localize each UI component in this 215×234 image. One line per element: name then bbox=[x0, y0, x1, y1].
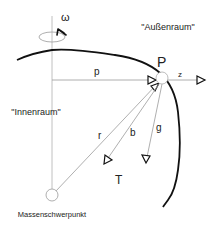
rotating-body-diagram: ω p z r b g P Massenschwerpunkt T "Außen… bbox=[0, 0, 215, 234]
outer-space-label: "Außenraum" bbox=[141, 22, 194, 32]
rotation-arrow-icon bbox=[57, 29, 66, 35]
p-label: p bbox=[94, 66, 100, 77]
center-of-mass-label: Massenschwerpunkt bbox=[18, 210, 87, 219]
b-line bbox=[104, 84, 159, 164]
r-label: r bbox=[98, 130, 102, 141]
b-label: b bbox=[130, 127, 136, 138]
omega-label: ω bbox=[61, 11, 70, 23]
b-arrowhead-icon bbox=[104, 155, 112, 164]
g-label: g bbox=[156, 122, 162, 133]
p-arrowhead-icon bbox=[148, 76, 156, 84]
z-label: z bbox=[178, 70, 182, 79]
point-p-marker bbox=[156, 72, 168, 84]
point-p-label: P bbox=[157, 54, 166, 70]
r-line bbox=[56, 83, 158, 191]
inner-space-label: "Innenraum" bbox=[11, 107, 60, 117]
center-of-mass-marker bbox=[46, 189, 58, 201]
z-arrowhead-icon bbox=[197, 76, 205, 84]
g-arrowhead-icon bbox=[142, 155, 150, 163]
t-label: T bbox=[115, 173, 123, 187]
